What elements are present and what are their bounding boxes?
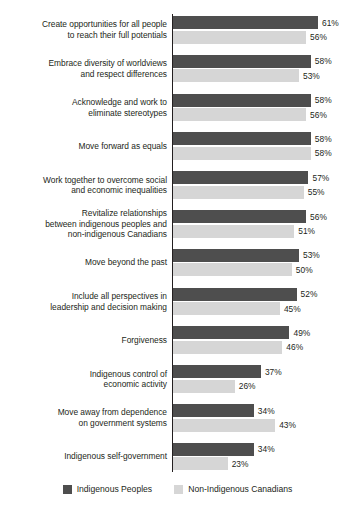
category-label-line: Move forward as equals — [0, 141, 167, 152]
category-label-line: Forgiveness — [0, 335, 167, 346]
bar-row: 57% — [173, 171, 355, 184]
bar-group: Move away from dependenceon government s… — [0, 404, 355, 432]
legend-swatch-icon — [63, 485, 72, 494]
category-label-line: on government systems — [0, 418, 167, 429]
bar-row: 53% — [173, 249, 355, 262]
bar-row: 46% — [173, 341, 355, 354]
bar-value-label: 46% — [286, 342, 303, 353]
category-label-line: non-indigenous Canadians — [0, 229, 167, 240]
category-label-line: Move away from dependence — [0, 407, 167, 418]
bar-value-label: 26% — [239, 381, 256, 392]
category-label: Create opportunities for all peopleto re… — [0, 19, 167, 40]
bar-pair: 58%53% — [173, 55, 355, 83]
bar-value-label: 52% — [301, 289, 318, 300]
bar-group: Work together to overcome socialand econ… — [0, 171, 355, 199]
bar-row: 37% — [173, 365, 355, 378]
bar-row: 56% — [173, 108, 355, 121]
bar-row: 56% — [173, 31, 355, 44]
bar-group: Indigenous control ofeconomic activity37… — [0, 365, 355, 393]
category-label: Forgiveness — [0, 335, 167, 346]
bar-row: 53% — [173, 69, 355, 82]
bar — [173, 443, 254, 456]
bar — [173, 404, 254, 417]
bar-value-label: 56% — [310, 32, 327, 43]
bar-group: Forgiveness49%46% — [0, 326, 355, 354]
bar-value-label: 37% — [265, 367, 282, 378]
bar-row: 34% — [173, 443, 355, 456]
bar-group: Embrace diversity of worldviewsand respe… — [0, 55, 355, 83]
category-label-line: leadership and decision making — [0, 302, 167, 313]
category-label-line: Indigenous self-government — [0, 451, 167, 462]
bar-row: 45% — [173, 302, 355, 315]
bar-row: 56% — [173, 210, 355, 223]
bar-group: Create opportunities for all peopleto re… — [0, 16, 355, 44]
bar — [173, 94, 311, 107]
bar-row: 43% — [173, 419, 355, 432]
bar-row: 26% — [173, 380, 355, 393]
bar — [173, 69, 299, 82]
bar-value-label: 53% — [303, 250, 320, 261]
bar-value-label: 43% — [279, 420, 296, 431]
bar-value-label: 61% — [322, 18, 339, 29]
bar-row: 34% — [173, 404, 355, 417]
category-label: Embrace diversity of worldviewsand respe… — [0, 58, 167, 79]
bar-row: 58% — [173, 94, 355, 107]
bar-value-label: 34% — [258, 406, 275, 417]
category-label-line: Move beyond the past — [0, 257, 167, 268]
category-label-line: Acknowledge and work to — [0, 97, 167, 108]
category-label-line: and respect differences — [0, 69, 167, 80]
bar-value-label: 34% — [258, 444, 275, 455]
bar-value-label: 58% — [315, 95, 332, 106]
bar-row: 49% — [173, 326, 355, 339]
category-label-line: Revitalize relationships — [0, 208, 167, 219]
bar-value-label: 56% — [310, 212, 327, 223]
bar — [173, 288, 297, 301]
bar — [173, 263, 292, 276]
legend-label: Indigenous Peoples — [77, 484, 153, 494]
bar-pair: 37%26% — [173, 365, 355, 393]
bar-value-label: 23% — [232, 459, 249, 470]
bar-value-label: 58% — [315, 134, 332, 145]
bar-pair: 57%55% — [173, 171, 355, 199]
bar-value-label: 58% — [315, 148, 332, 159]
category-label: Move away from dependenceon government s… — [0, 407, 167, 428]
legend-item: Indigenous Peoples — [63, 484, 153, 494]
bar — [173, 341, 282, 354]
bar-group: Indigenous self-government34%23% — [0, 443, 355, 471]
category-label: Move forward as equals — [0, 141, 167, 152]
bar-value-label: 53% — [303, 71, 320, 82]
bar-row: 50% — [173, 263, 355, 276]
category-label: Include all perspectives inleadership an… — [0, 291, 167, 312]
bar — [173, 225, 294, 238]
category-label: Revitalize relationshipsbetween indigeno… — [0, 208, 167, 240]
bar-row: 58% — [173, 147, 355, 160]
category-label-line: Include all perspectives in — [0, 291, 167, 302]
bar-chart: Create opportunities for all peopleto re… — [0, 0, 355, 514]
bar-pair: 49%46% — [173, 326, 355, 354]
bar-pair: 34%43% — [173, 404, 355, 432]
category-label: Indigenous self-government — [0, 451, 167, 462]
category-label-line: to reach their full potentials — [0, 30, 167, 41]
bar-pair: 61%56% — [173, 16, 355, 44]
category-label-line: Indigenous control of — [0, 369, 167, 380]
bar — [173, 365, 261, 378]
bar-value-label: 57% — [312, 173, 329, 184]
bar-row: 58% — [173, 55, 355, 68]
bar-pair: 58%56% — [173, 94, 355, 122]
plot-area: Create opportunities for all peopleto re… — [0, 0, 355, 478]
category-label-line: Embrace diversity of worldviews — [0, 58, 167, 69]
bar-row: 23% — [173, 457, 355, 470]
chart-legend: Indigenous PeoplesNon-Indigenous Canadia… — [0, 480, 355, 498]
bar-value-label: 58% — [315, 56, 332, 67]
category-label-line: and economic inequalities — [0, 185, 167, 196]
bar-group: Move beyond the past53%50% — [0, 249, 355, 277]
bar-value-label: 49% — [293, 328, 310, 339]
bar — [173, 210, 306, 223]
bar-value-label: 55% — [308, 187, 325, 198]
bar — [173, 55, 311, 68]
bar-pair: 56%51% — [173, 210, 355, 238]
bar-value-label: 45% — [284, 304, 301, 315]
legend-label: Non-Indigenous Canadians — [188, 484, 292, 494]
bar-pair: 52%45% — [173, 288, 355, 316]
legend-item: Non-Indigenous Canadians — [174, 484, 292, 494]
